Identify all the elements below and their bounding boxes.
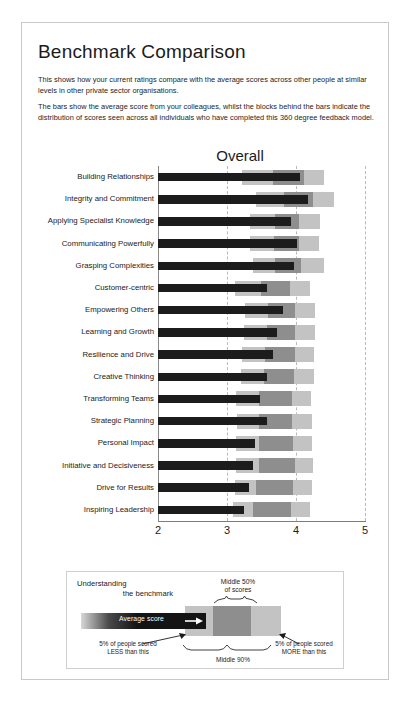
x-tick-4: 4	[293, 524, 299, 536]
category-label: Applying Specialist Knowledge	[4, 216, 154, 225]
chart-row: Strategic Planning	[22, 410, 390, 432]
average-score-bar	[158, 262, 294, 271]
legend-band-50	[213, 606, 251, 636]
category-label: Communicating Powerfully	[4, 239, 154, 248]
chart-row: Resilience and Drive	[22, 344, 390, 366]
legend-right-note: 5% of people scored MORE than this	[271, 640, 337, 656]
band-middle-50	[259, 436, 294, 451]
category-label: Initiative and Decisiveness	[4, 461, 154, 470]
category-label: Resilience and Drive	[4, 350, 154, 359]
chart-row: Grasping Complexities	[22, 255, 390, 277]
chart-row: Customer-centric	[22, 277, 390, 299]
chart-row: Personal Impact	[22, 432, 390, 454]
chart-row: Creative Thinking	[22, 366, 390, 388]
category-label: Inspiring Leadership	[4, 505, 154, 514]
legend-middle50-line2: of scores	[225, 586, 252, 593]
chart-row: Transforming Teams	[22, 388, 390, 410]
chart-row: Empowering Others	[22, 299, 390, 321]
chart-row: Building Relationships	[22, 166, 390, 188]
band-middle-50	[256, 480, 293, 495]
chart-row: Applying Specialist Knowledge	[22, 210, 390, 232]
benchmark-chart: 2345 Building RelationshipsIntegrity and…	[22, 166, 390, 554]
category-label: Transforming Teams	[4, 394, 154, 403]
category-label: Building Relationships	[4, 172, 154, 181]
legend-middle90-label: Middle 90%	[185, 656, 281, 663]
average-score-bar	[158, 461, 253, 470]
category-label: Grasping Complexities	[4, 261, 154, 270]
category-label: Learning and Growth	[4, 327, 154, 336]
intro-paragraph-2: The bars show the average score from you…	[38, 102, 374, 123]
chart-row: Drive for Results	[22, 477, 390, 499]
average-score-bar	[158, 439, 255, 448]
x-tick-3: 3	[224, 524, 230, 536]
x-tick-5: 5	[362, 524, 368, 536]
band-middle-50	[259, 458, 295, 473]
intro-paragraph-1: This shows how your current ratings comp…	[38, 75, 374, 96]
average-score-bar	[158, 306, 283, 315]
average-score-bar	[158, 173, 300, 182]
average-score-bar	[158, 506, 244, 515]
average-score-bar	[158, 195, 308, 204]
band-middle-50	[264, 369, 294, 384]
average-score-bar	[158, 373, 267, 382]
x-tick-2: 2	[155, 524, 161, 536]
chart-row: Communicating Powerfully	[22, 233, 390, 255]
legend-title-line2: the benchmark	[77, 589, 173, 599]
average-score-bar	[158, 328, 277, 337]
band-middle-50	[259, 391, 292, 406]
legend-middle50-label: Middle 50% of scores	[203, 578, 273, 595]
chart-row: Integrity and Commitment	[22, 188, 390, 210]
chart-row: Initiative and Decisiveness	[22, 454, 390, 476]
chart-title: Overall	[22, 147, 390, 164]
x-axis-line	[158, 521, 366, 522]
average-score-bar	[158, 217, 291, 226]
average-score-bar	[158, 417, 267, 426]
category-label: Creative Thinking	[4, 372, 154, 381]
average-score-bar	[158, 483, 249, 492]
legend-average-score-label: Average score	[119, 615, 164, 622]
page-title: Benchmark Comparison	[38, 41, 246, 63]
legend-box: Understanding the benchmark Middle 50% o…	[66, 571, 344, 669]
legend-left-note: 5% of people scored LESS than this	[95, 640, 161, 656]
average-score-bar	[158, 239, 297, 248]
category-label: Strategic Planning	[4, 416, 154, 425]
legend-title-line1: Understanding	[77, 579, 126, 588]
chart-row: Learning and Growth	[22, 321, 390, 343]
category-label: Integrity and Commitment	[4, 194, 154, 203]
average-score-bar	[158, 284, 267, 293]
average-score-bar	[158, 350, 273, 359]
category-label: Personal Impact	[4, 438, 154, 447]
legend-middle50-line1: Middle 50%	[221, 578, 255, 585]
band-middle-50	[253, 502, 292, 517]
category-label: Customer-centric	[4, 283, 154, 292]
category-label: Drive for Results	[4, 483, 154, 492]
legend-title: Understanding the benchmark	[77, 579, 173, 598]
average-score-bar	[158, 395, 260, 404]
category-label: Empowering Others	[4, 305, 154, 314]
report-page: Benchmark Comparison This shows how your…	[21, 22, 389, 680]
chart-row: Inspiring Leadership	[22, 499, 390, 521]
